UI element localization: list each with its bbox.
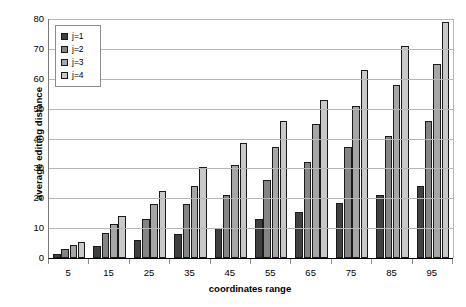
bar [102, 233, 110, 258]
gridline [49, 228, 453, 229]
x-axis-tick [48, 259, 49, 264]
y-axis-tick-label: 70 [22, 44, 44, 54]
x-axis-tick-label: 65 [290, 267, 330, 278]
legend-label: j=4 [72, 71, 84, 80]
bar [344, 147, 352, 258]
x-axis-title: coordinates range [48, 283, 452, 294]
legend-swatch-icon [61, 59, 68, 66]
x-axis-tick [412, 259, 413, 264]
x-axis-tick [210, 259, 211, 264]
legend-label: j=1 [72, 32, 84, 41]
bar [61, 249, 69, 258]
bar [199, 167, 207, 258]
x-axis-tick-label: 85 [371, 267, 411, 278]
x-axis-tick-label: 55 [250, 267, 290, 278]
x-axis-tick [290, 259, 291, 264]
bar [134, 240, 142, 258]
bar [425, 121, 433, 258]
bar [401, 46, 409, 258]
plot-right-border [453, 19, 454, 258]
legend: j=1j=2j=3j=4 [55, 25, 101, 87]
legend-item: j=1 [61, 30, 96, 43]
bar [78, 242, 86, 258]
bar [295, 212, 303, 258]
bar-chart: average editing distance 010203040506070… [0, 0, 466, 307]
bar [312, 124, 320, 258]
x-axis-tick [250, 259, 251, 264]
bar [53, 254, 61, 258]
x-axis-tick-labels: 5152535455565758595 [48, 267, 452, 278]
bar [174, 234, 182, 258]
legend-label: j=3 [72, 58, 84, 67]
y-axis-tick-label: 10 [22, 223, 44, 233]
bar [142, 219, 150, 258]
legend-item: j=4 [61, 69, 96, 82]
bar [223, 195, 231, 258]
y-axis-tick-label: 40 [22, 134, 44, 144]
gridline [49, 139, 453, 140]
bar [352, 106, 360, 258]
plot-area [48, 19, 453, 259]
bar [320, 100, 328, 258]
x-axis-tick-label: 25 [129, 267, 169, 278]
legend-swatch-icon [61, 72, 68, 79]
bar [118, 216, 126, 258]
bar [70, 245, 78, 258]
x-axis-tick-label: 45 [210, 267, 250, 278]
bar [385, 136, 393, 258]
bar [393, 85, 401, 258]
x-axis-tick [371, 259, 372, 264]
bar [93, 246, 101, 258]
bar [442, 22, 450, 258]
x-axis-tick [88, 259, 89, 264]
y-axis-tick-label: 50 [22, 104, 44, 114]
gridline [49, 79, 453, 80]
bar [255, 219, 263, 258]
gridline [49, 19, 453, 20]
x-axis-tick-label: 95 [412, 267, 452, 278]
gridline [49, 49, 453, 50]
bar [159, 191, 167, 258]
x-axis-tick-label: 75 [331, 267, 371, 278]
x-axis-tick [452, 259, 453, 264]
gridline [49, 109, 453, 110]
bar [336, 203, 344, 258]
y-axis-tick-label: 0 [22, 253, 44, 263]
bar [280, 121, 288, 258]
y-axis-tick-label: 60 [22, 74, 44, 84]
legend-label: j=2 [72, 45, 84, 54]
y-axis-tick-label: 20 [22, 193, 44, 203]
x-axis-tick-label: 15 [88, 267, 128, 278]
bar [376, 195, 384, 258]
x-axis-tick [169, 259, 170, 264]
legend-swatch-icon [61, 33, 68, 40]
bar [215, 228, 223, 258]
y-axis-tick-label: 80 [22, 14, 44, 24]
x-axis-tick-label: 5 [48, 267, 88, 278]
bar [304, 162, 312, 258]
bar [272, 147, 280, 258]
bar [263, 180, 271, 258]
bar [183, 204, 191, 258]
gridline [49, 198, 453, 199]
bar [240, 143, 248, 258]
legend-swatch-icon [61, 46, 68, 53]
bar [361, 70, 369, 258]
bar [150, 204, 158, 258]
gridline [49, 168, 453, 169]
bar [231, 165, 239, 258]
y-axis-tick-label: 30 [22, 163, 44, 173]
x-axis-ticks [48, 259, 452, 265]
x-axis-tick [129, 259, 130, 264]
x-axis-tick-label: 35 [169, 267, 209, 278]
legend-item: j=2 [61, 43, 96, 56]
x-axis-tick [331, 259, 332, 264]
legend-item: j=3 [61, 56, 96, 69]
y-axis-tick-labels: 01020304050607080 [22, 13, 44, 259]
